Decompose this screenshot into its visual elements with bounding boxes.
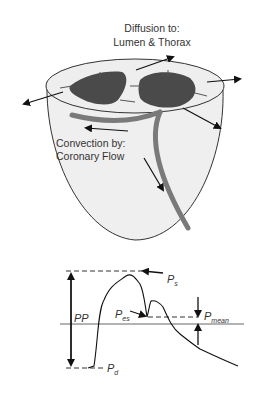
ps-label: Ps <box>167 273 178 287</box>
diffusion-title-line1: Diffusion to: <box>124 22 179 34</box>
pd-label: Pd <box>107 362 119 376</box>
pes-arrow <box>130 311 145 316</box>
pmean-label: Pmean <box>204 310 229 324</box>
convection-label-line2: Coronary Flow <box>56 150 125 162</box>
right-chamber <box>139 72 196 107</box>
pressure-waveform: PP Ps Pes Pmean Pd <box>60 271 244 376</box>
diffusion-title-line2: Lumen & Thorax <box>113 36 191 48</box>
pp-label: PP <box>74 312 89 324</box>
convection-label-line1: Convection by: <box>56 137 125 149</box>
ps-arrow <box>143 271 163 273</box>
diagram-canvas: Diffusion to: Lumen & Thorax Convection … <box>0 0 258 393</box>
heart-illustration: Diffusion to: Lumen & Thorax Convection … <box>24 22 240 240</box>
pes-label: Pes <box>115 308 130 322</box>
